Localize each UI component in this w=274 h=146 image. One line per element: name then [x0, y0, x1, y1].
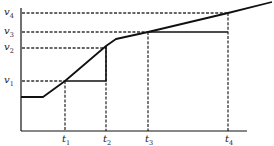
x-axis-labels: t1t2t3t4: [62, 133, 233, 146]
y-axis-labels: v4v3v2v1: [4, 6, 14, 88]
x-label-t3: t3: [145, 133, 153, 146]
y-label-v4: v4: [4, 6, 14, 20]
x-label-t1: t1: [62, 133, 70, 146]
y-label-v3: v3: [4, 25, 14, 39]
step-lines: [65, 32, 228, 81]
y-label-v1: v1: [4, 74, 14, 88]
axes: [21, 8, 247, 131]
x-label-t4: t4: [225, 133, 233, 146]
velocity-curve: [21, 2, 272, 97]
y-label-v2: v2: [4, 41, 14, 55]
dashed-guide-lines: [22, 13, 228, 131]
velocity-time-diagram: v4v3v2v1 t1t2t3t4: [0, 0, 274, 146]
x-label-t2: t2: [103, 133, 111, 146]
